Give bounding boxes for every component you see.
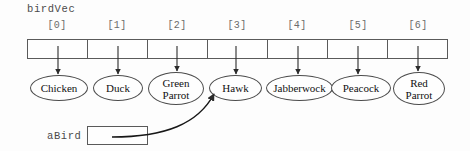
vector-array [27, 39, 448, 59]
index-label-2: [2] [147, 20, 207, 31]
index-label-4: [4] [267, 20, 327, 31]
array-cell-6 [388, 40, 447, 58]
element-node-0: Chicken [30, 75, 88, 101]
index-label-0: [0] [27, 20, 87, 31]
index-label-3: [3] [207, 20, 267, 31]
pointer-name-label: aBird [47, 130, 82, 142]
element-node-2: Green Parrot [148, 72, 204, 105]
element-node-6: Red Parrot [393, 72, 445, 105]
element-node-1: Duck [93, 75, 143, 101]
element-node-2-line-0: Green [161, 77, 192, 89]
element-node-6-line-0: Red [408, 77, 430, 89]
index-label-6: [6] [388, 20, 448, 31]
element-node-2-line-1: Parrot [161, 89, 192, 101]
element-node-4: Jabberwock [266, 75, 333, 101]
element-node-3-line-0: Hawk [220, 82, 250, 94]
vector-name-label: birdVec [27, 3, 75, 15]
array-cell-5 [328, 40, 388, 58]
element-node-6-line-1: Parrot [404, 89, 435, 101]
element-node-4-line-0: Jabberwock [271, 82, 328, 94]
array-cell-1 [88, 40, 148, 58]
array-cell-4 [268, 40, 328, 58]
array-cell-3 [208, 40, 268, 58]
element-node-5-line-0: Peacock [341, 82, 382, 94]
element-node-1-line-0: Duck [104, 82, 132, 94]
vector-diagram: birdVec [0] [1] [2] [3] [4] [5] [6] Chic… [0, 0, 470, 151]
element-node-5: Peacock [331, 75, 391, 101]
element-node-3: Hawk [209, 75, 262, 101]
pointer-box [87, 126, 148, 145]
array-cell-2 [148, 40, 208, 58]
element-node-0-line-0: Chicken [39, 82, 80, 94]
array-cell-0 [28, 40, 88, 58]
index-label-5: [5] [328, 20, 388, 31]
index-label-1: [1] [87, 20, 147, 31]
